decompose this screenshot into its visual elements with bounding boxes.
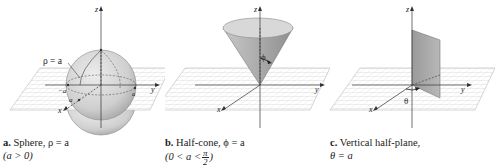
z-axis-label: z (94, 5, 99, 14)
caption-sphere: a. Sphere, ρ = a (a > 0) (3, 136, 69, 162)
x-axis-label: x (216, 105, 221, 114)
x-axis-label: x (368, 105, 373, 114)
caption-half-cone: b. Half-cone, ϕ = a (0 < a <π2) (165, 136, 245, 166)
x-axis-label: x (57, 106, 62, 115)
angle-label-phi: ϕ (261, 52, 266, 62)
panel-sphere: z y x ρ = a −a a a a. Sphere, ρ = a (a >… (0, 0, 165, 168)
caption-letter: b. (165, 137, 173, 148)
z-axis-label: z (405, 5, 410, 14)
caption-title: Half-cone, ϕ = a (176, 137, 245, 148)
y-axis-label: y (314, 85, 319, 94)
caption-title: Vertical half-plane, (340, 137, 420, 148)
z-axis-label: z (253, 5, 258, 14)
caption-half-plane: c. Vertical half-plane, θ = a (330, 136, 420, 162)
y-axis-label: y (150, 85, 155, 94)
caption-letter: a. (3, 137, 11, 148)
caption-condition: θ = a (330, 149, 420, 162)
y-axis-label: y (460, 85, 465, 94)
surface-label-rho: ρ = a (43, 56, 63, 66)
caption-condition: (a > 0) (3, 149, 69, 162)
fraction-pi-over-2: π2 (202, 149, 209, 166)
panel-vertical-half-plane: θ z y x c. Vertical half-plane, θ = a (330, 0, 495, 168)
angle-label-theta: θ (404, 96, 408, 106)
cone-rim (223, 18, 293, 38)
tick-label-x-a: a (69, 96, 73, 104)
caption-letter: c. (330, 137, 337, 148)
tick-label-y-a: a (132, 90, 136, 98)
tick-label-neg-a: −a (58, 87, 67, 95)
caption-title: Sphere, ρ = a (14, 137, 69, 148)
panel-half-cone: ϕ z y x b. Half-cone, ϕ = a (0 < a <π2) (165, 0, 330, 168)
caption-condition: (0 < a <π2) (165, 149, 245, 166)
